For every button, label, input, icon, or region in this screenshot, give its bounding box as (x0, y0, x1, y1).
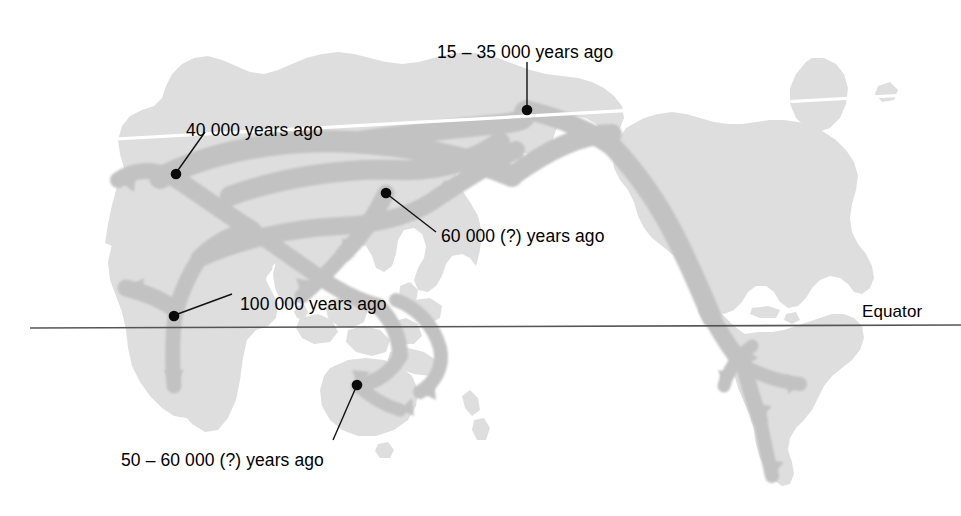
dot-europe (171, 169, 182, 180)
dot-bering (522, 105, 533, 116)
equator-label: Equator (862, 303, 922, 320)
annotation-label-bering: 15 – 35 000 years ago (437, 44, 613, 62)
world-map-graphic (0, 0, 961, 516)
dot-east-africa (169, 311, 180, 322)
annotation-label-east-africa: 100 000 years ago (240, 296, 387, 314)
dot-east-asia (381, 188, 392, 199)
migration-map-figure: 15 – 35 000 years ago 40 000 years ago 6… (0, 0, 961, 516)
dot-australia (352, 380, 363, 391)
annotation-label-australia: 50 – 60 000 (?) years ago (121, 452, 324, 470)
annotation-label-europe: 40 000 years ago (186, 122, 323, 140)
annotation-label-east-asia: 60 000 (?) years ago (441, 228, 605, 246)
